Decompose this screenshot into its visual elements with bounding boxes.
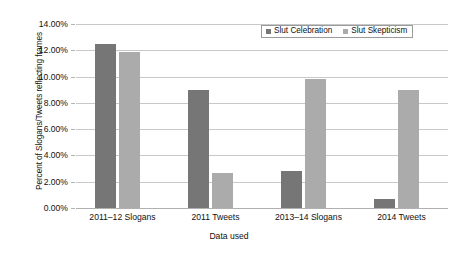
y-axis-tick-mark xyxy=(71,50,75,51)
y-axis-tick-label: 8.00% xyxy=(22,98,68,108)
gridline xyxy=(76,208,448,209)
legend-item: Slut Skepticism xyxy=(343,27,407,35)
y-axis-tick-mark xyxy=(71,77,75,78)
x-axis-title: Data used xyxy=(0,231,458,241)
y-axis-tick-mark xyxy=(71,24,75,25)
chart-legend: Slut CelebrationSlut Skepticism xyxy=(261,25,413,38)
y-axis-tick-mark xyxy=(71,208,75,209)
bar-chart: Percent of Slogans/Tweets reflecting fra… xyxy=(0,0,458,253)
bars-layer xyxy=(76,24,448,208)
bar-0 xyxy=(281,171,302,208)
bar-group xyxy=(169,24,262,208)
x-axis-tick-label: 2014 Tweets xyxy=(355,212,448,222)
y-axis-tick-mark xyxy=(71,103,75,104)
x-axis-tick-label: 2011 Tweets xyxy=(169,212,262,222)
plot-area: 0.00%2.00%4.00%6.00%8.00%10.00%12.00%14.… xyxy=(76,24,448,208)
x-axis-tick-label: 2011–12 Slogans xyxy=(76,212,169,222)
bar-1 xyxy=(398,90,419,208)
y-axis-tick-label: 12.00% xyxy=(22,45,68,55)
bar-1 xyxy=(305,79,326,208)
bar-0 xyxy=(188,90,209,208)
bar-group xyxy=(262,24,355,208)
legend-swatch-icon xyxy=(343,29,348,34)
y-axis-tick-mark xyxy=(71,182,75,183)
y-axis-tick-label: 0.00% xyxy=(22,203,68,213)
bar-1 xyxy=(212,173,233,208)
y-axis-tick-label: 6.00% xyxy=(22,124,68,134)
bar-1 xyxy=(119,52,140,208)
y-axis-tick-mark xyxy=(71,129,75,130)
legend-label: Slut Skepticism xyxy=(351,27,407,35)
bar-group xyxy=(76,24,169,208)
y-axis-tick-label: 10.00% xyxy=(22,72,68,82)
legend-item: Slut Celebration xyxy=(266,27,332,35)
y-axis-tick-label: 2.00% xyxy=(22,177,68,187)
y-axis-tick-label: 14.00% xyxy=(22,19,68,29)
x-axis-tick-label: 2013–14 Slogans xyxy=(262,212,355,222)
legend-swatch-icon xyxy=(266,29,271,34)
y-axis-tick-label: 4.00% xyxy=(22,150,68,160)
legend-label: Slut Celebration xyxy=(274,27,332,35)
bar-0 xyxy=(95,44,116,208)
bar-group xyxy=(355,24,448,208)
y-axis-tick-mark xyxy=(71,155,75,156)
bar-0 xyxy=(374,199,395,208)
